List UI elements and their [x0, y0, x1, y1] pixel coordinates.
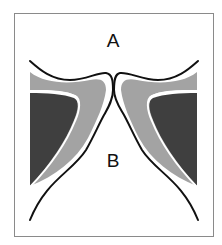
region-label-a: A [107, 31, 120, 50]
region-label-b: B [107, 151, 120, 170]
